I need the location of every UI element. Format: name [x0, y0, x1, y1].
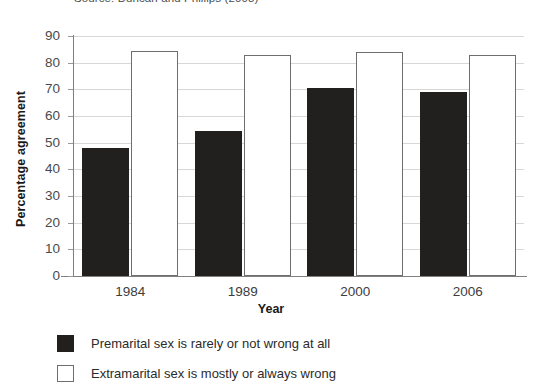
- y-tick-mark: [68, 116, 73, 117]
- y-tick-mark: [68, 89, 73, 90]
- y-tick-label: 30: [14, 189, 60, 203]
- y-tick-label: 10: [14, 242, 60, 256]
- bar-2006-series1: [420, 92, 467, 276]
- bar-chart: Percentage agreement 0102030405060708090…: [0, 0, 542, 318]
- y-tick-label: 60: [14, 109, 60, 123]
- bar-2000-series2: [356, 52, 403, 276]
- legend-swatch-outlined-icon: [57, 365, 74, 382]
- y-tick-label: 0: [14, 269, 60, 283]
- gridline: [74, 36, 524, 37]
- y-tick-label: 80: [14, 56, 60, 70]
- x-axis-title: Year: [0, 302, 542, 316]
- x-tick-label-1984: 1984: [75, 284, 185, 299]
- chart-legend: Premarital sex is rarely or not wrong at…: [57, 328, 487, 388]
- bar-1984-series2: [131, 51, 178, 276]
- plot-area: [74, 36, 524, 276]
- y-tick-label: 20: [14, 216, 60, 230]
- x-axis-line: [61, 276, 527, 277]
- x-tick-label-2006: 2006: [413, 284, 523, 299]
- bar-1989-series2: [244, 55, 291, 276]
- y-tick-mark: [68, 143, 73, 144]
- legend-label-premarital: Premarital sex is rarely or not wrong at…: [91, 336, 330, 351]
- y-tick-mark: [68, 249, 73, 250]
- y-tick-label: 40: [14, 162, 60, 176]
- x-tick-label-1989: 1989: [188, 284, 298, 299]
- y-tick-label: 90: [14, 29, 60, 43]
- legend-label-extramarital: Extramarital sex is mostly or always wro…: [91, 366, 336, 381]
- bar-2006-series2: [469, 55, 516, 276]
- bar-2000-series1: [307, 88, 354, 276]
- y-tick-mark: [68, 196, 73, 197]
- y-tick-mark: [68, 36, 73, 37]
- y-tick-mark: [68, 223, 73, 224]
- y-tick-label: 50: [14, 136, 60, 150]
- bar-1984-series1: [82, 148, 129, 276]
- legend-item-extramarital: Extramarital sex is mostly or always wro…: [57, 358, 487, 388]
- x-tick-label-2000: 2000: [300, 284, 410, 299]
- y-tick-mark: [68, 169, 73, 170]
- legend-swatch-filled-icon: [57, 335, 74, 352]
- legend-item-premarital: Premarital sex is rarely or not wrong at…: [57, 328, 487, 358]
- y-tick-label: 70: [14, 82, 60, 96]
- y-tick-mark: [68, 63, 73, 64]
- bar-1989-series1: [195, 131, 242, 276]
- y-tick-mark: [68, 276, 73, 277]
